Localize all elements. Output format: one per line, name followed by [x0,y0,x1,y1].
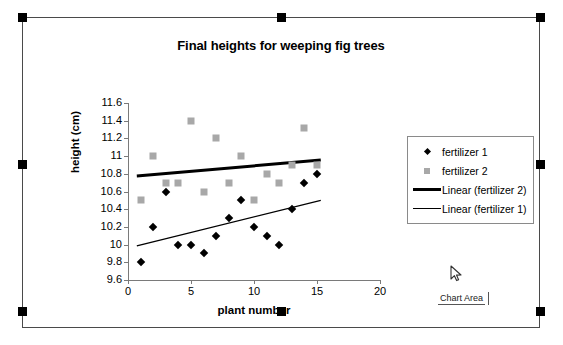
legend-entry-fertilizer-1[interactable]: fertilizer 1 [412,142,529,161]
y-axis-tick [124,209,128,210]
trendline [137,160,321,176]
x-axis-tick [191,280,192,284]
selection-handle-bottom-left[interactable] [18,307,27,316]
y-axis-tick [124,138,128,139]
y-axis-tick-label: 10.6 [82,185,122,197]
x-axis-tick [128,280,129,284]
diamond-marker-icon [412,149,442,154]
y-axis-tick-label: 9.8 [82,255,122,267]
legend-entry-linear-fertilizer-1[interactable]: Linear (fertilizer 1) [412,199,529,218]
trendline-layer [128,103,380,280]
x-axis-tick-label: 5 [176,285,206,297]
mouse-cursor-icon [450,265,462,283]
y-axis-tick [124,174,128,175]
y-axis-tick-label: 11 [82,149,122,161]
chart-legend[interactable]: fertilizer 1 fertilizer 2 Linear (fertil… [407,136,534,224]
x-axis-tick [317,280,318,284]
chart-area-tooltip: Chart Area [438,292,485,305]
y-axis-tick-label: 10 [82,238,122,250]
y-axis-tick-label: 10.8 [82,167,122,179]
y-axis-tick [124,227,128,228]
y-axis-tick-label: 11.2 [82,131,122,143]
legend-label: fertilizer 1 [442,146,488,158]
selection-handle-bottom-right[interactable] [536,307,545,316]
chart-title: Final heights for weeping fig trees [23,38,539,53]
selection-handle-top-right[interactable] [536,13,545,22]
selection-handle-middle-left[interactable] [18,160,27,169]
legend-label: Linear (fertilizer 2) [442,184,527,196]
x-axis-tick-label: 20 [365,285,395,297]
y-axis-tick [124,103,128,104]
trendline [137,200,321,246]
y-axis-tick-label: 10.2 [82,220,122,232]
y-axis-tick [124,192,128,193]
legend-entry-linear-fertilizer-2[interactable]: Linear (fertilizer 2) [412,180,529,199]
legend-entry-fertilizer-2[interactable]: fertilizer 2 [412,161,529,180]
x-axis-tick [254,280,255,284]
y-axis-tick-label: 11.6 [82,96,122,108]
y-axis-tick-label: 10.4 [82,202,122,214]
selection-handle-top-center[interactable] [277,13,286,22]
x-axis-tick-label: 15 [302,285,332,297]
x-axis-title: plant number [128,304,380,316]
selection-handle-bottom-center[interactable] [277,307,286,316]
thick-line-icon [412,188,442,191]
thin-line-icon [412,208,442,210]
y-axis-title: height (cm) [69,87,81,197]
legend-label: fertilizer 2 [442,165,488,177]
chart-object[interactable]: Final heights for weeping fig trees heig… [22,17,540,328]
y-axis-tick [124,262,128,263]
legend-label: Linear (fertilizer 1) [442,203,527,215]
y-axis-tick [124,121,128,122]
y-axis-tick [124,156,128,157]
y-axis-tick-label: 9.6 [82,273,122,285]
selection-handle-top-left[interactable] [18,13,27,22]
selection-handle-middle-right[interactable] [536,160,545,169]
y-axis-tick [124,245,128,246]
plot-area[interactable]: 9.69.81010.210.410.610.81111.211.411.605… [128,103,380,280]
y-axis-tick-label: 11.4 [82,114,122,126]
x-axis-tick [380,280,381,284]
x-axis-tick-label: 10 [239,285,269,297]
x-axis-tick-label: 0 [113,285,143,297]
square-marker-icon [412,168,442,174]
